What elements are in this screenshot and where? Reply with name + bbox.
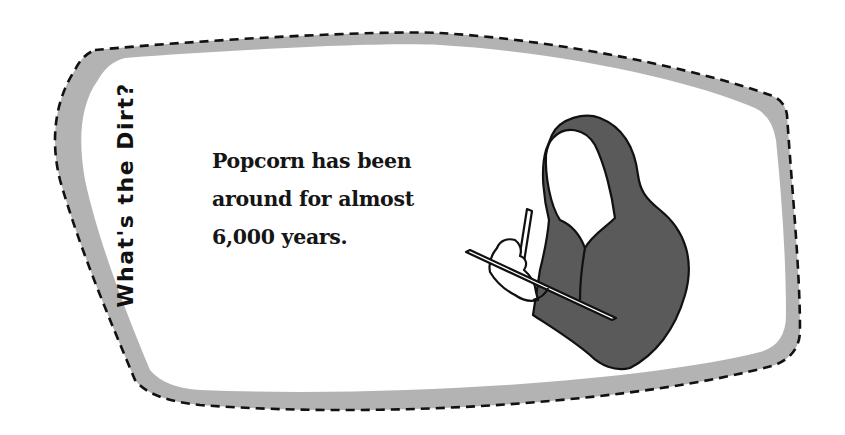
fact-line-2: around for almost	[212, 180, 414, 218]
fact-line-1: Popcorn has been	[212, 142, 414, 180]
side-title: What's the Dirt?	[113, 82, 138, 307]
fact-line-3: 6,000 years.	[212, 218, 414, 256]
fact-text: Popcorn has been around for almost 6,000…	[212, 142, 414, 256]
frame-interior	[81, 44, 786, 392]
